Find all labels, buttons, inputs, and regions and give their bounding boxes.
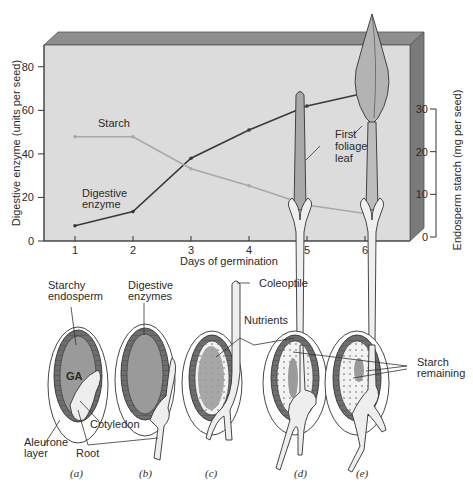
data-point — [131, 135, 135, 139]
label-aleurone-2: layer — [24, 447, 48, 459]
enzyme-series-label-2: enzyme — [82, 198, 121, 210]
ga-label: GA — [66, 370, 83, 382]
panel-label-b: (b) — [139, 467, 152, 480]
y-tick-label: 40 — [22, 148, 34, 160]
seed-e — [325, 331, 389, 472]
x-tick-label: 2 — [130, 244, 136, 256]
data-point — [189, 167, 193, 171]
leaf-label-1: First — [335, 128, 356, 140]
data-point — [305, 104, 309, 108]
seed-c — [182, 281, 242, 440]
label-cotyledon: Cotyledon — [90, 418, 140, 430]
x-tick-label: 1 — [72, 244, 78, 256]
label-starch-remaining-2: remaining — [417, 367, 465, 379]
y-tick-label: 80 — [22, 61, 34, 73]
y-tick-label: 0 — [28, 235, 34, 247]
y2-axis-label: Endosperm starch (mg per seed) — [451, 90, 463, 251]
data-point — [73, 224, 77, 228]
label-starchy-2: endosperm — [48, 290, 103, 302]
y2-tick-label: 10 — [416, 188, 428, 200]
x-axis-label: Days of germination — [180, 255, 278, 267]
y-axis-label: Digestive enzyme (units per seed) — [10, 60, 22, 226]
label-nutrients: Nutrients — [244, 314, 289, 326]
label-coleoptile: Coleoptile — [259, 277, 308, 289]
data-point — [189, 156, 193, 160]
y-tick-label: 20 — [22, 191, 34, 203]
x-tick-label: 5 — [304, 244, 310, 256]
panel-label-d: (d) — [294, 467, 307, 480]
leaf-label-2: foliage — [335, 140, 367, 152]
x-tick-label: 6 — [362, 244, 368, 256]
y2-tick-label: 20 — [416, 146, 428, 158]
y-tick-label: 60 — [22, 104, 34, 116]
panel-label-e: (e) — [356, 467, 369, 480]
y2-tick-label: 30 — [416, 103, 428, 115]
data-point — [247, 128, 251, 132]
data-point — [73, 135, 77, 139]
y2-tick-label: 0 — [422, 231, 428, 243]
starch-series-label: Starch — [98, 117, 130, 129]
panel-label-a: (a) — [70, 467, 83, 480]
data-point — [247, 184, 251, 188]
germination-figure: 020406080 123456 0102030 Digestive enzym… — [0, 0, 473, 490]
label-root: Root — [76, 447, 99, 459]
label-digestive-2: enzymes — [128, 290, 173, 302]
chart-panel-side — [410, 32, 424, 241]
leaf-label-3: leaf — [335, 152, 354, 164]
y-axis-ticks: 020406080 — [22, 61, 44, 247]
data-point — [131, 210, 135, 214]
panel-label-c: (c) — [205, 467, 218, 480]
